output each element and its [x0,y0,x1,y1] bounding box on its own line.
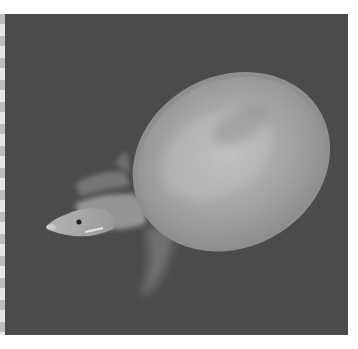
turtle-eye [77,220,82,225]
turtle-snout [46,224,56,230]
turtle-photo [5,14,348,335]
turtle-illustration [5,14,348,335]
